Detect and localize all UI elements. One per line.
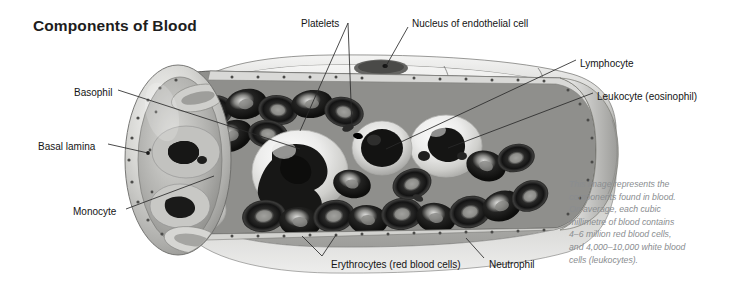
label-platelets: Platelets <box>301 18 339 30</box>
figure-caption: This image represents the components fou… <box>569 178 727 266</box>
caption-line-7: cells (leukocytes). <box>569 254 727 267</box>
label-neutrophil: Neutrophil <box>489 259 535 271</box>
label-lymphocyte: Lymphocyte <box>580 58 634 70</box>
label-nucleus-of-endothelial-cell: Nucleus of endothelial cell <box>412 18 528 30</box>
label-basal-lamina: Basal lamina <box>38 141 95 153</box>
caption-line-3: On average, each cubic <box>569 203 727 216</box>
label-basophil: Basophil <box>74 87 112 99</box>
caption-line-5: 4–6 million red blood cells, <box>569 228 727 241</box>
caption-line-2: components found in blood. <box>569 191 727 204</box>
caption-line-4: millimetre of blood contains <box>569 216 727 229</box>
label-erythrocytes: Erythrocytes (red blood cells) <box>331 259 461 271</box>
label-leukocyte-eosinophil: Leukocyte (eosinophil) <box>597 91 697 103</box>
label-monocyte: Monocyte <box>73 206 116 218</box>
figure-canvas: Components of Blood <box>0 0 732 297</box>
caption-line-6: and 4,000–10,000 white blood <box>569 241 727 254</box>
caption-line-1: This image represents the <box>569 178 727 191</box>
